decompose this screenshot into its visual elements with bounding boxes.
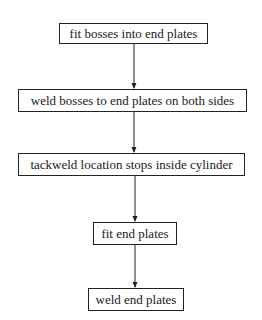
step-5-label: weld end plates <box>96 292 177 308</box>
step-2-label: weld bosses to end plates on both sides <box>31 93 234 109</box>
step-1-box: fit bosses into end plates <box>59 23 208 44</box>
step-1-label: fit bosses into end plates <box>70 26 198 42</box>
step-3-label: tackweld location stops inside cylinder <box>30 157 232 173</box>
step-4-label: fit end plates <box>101 226 168 242</box>
step-4-box: fit end plates <box>93 222 177 245</box>
step-3-box: tackweld location stops inside cylinder <box>18 153 245 176</box>
step-2-box: weld bosses to end plates on both sides <box>18 89 247 112</box>
step-5-box: weld end plates <box>88 288 184 311</box>
